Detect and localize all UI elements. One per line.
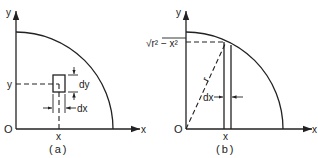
point-y-label-a: y (7, 79, 12, 90)
dx-label-b: dx (203, 92, 214, 103)
panel-b: dx r √r² − x² y x O x (b) (146, 7, 317, 155)
quarter-arc-b (186, 32, 283, 129)
dx-label-a: dx (77, 103, 88, 114)
point-x-label-a: x (56, 131, 61, 142)
origin-label-b: O (174, 123, 183, 135)
caption-a: (a) (49, 143, 68, 155)
quarter-circle-diagram: dy dx y x O x y (a) dx r √r² − x² y x O (0, 0, 318, 158)
point-x-label-b: x (223, 131, 228, 142)
x-axis-label-b: x (312, 124, 317, 135)
radius-label: r (200, 74, 212, 83)
y-axis-label-b: y (176, 7, 181, 18)
panel-a: dy dx y x O x y (a) (4, 7, 146, 155)
height-label: √r² − x² (146, 38, 179, 49)
radius-dashed (186, 42, 226, 129)
x-axis-label-a: x (141, 124, 146, 135)
y-axis-label-a: y (6, 7, 11, 18)
dy-label: dy (79, 79, 90, 90)
caption-b: (b) (216, 143, 235, 155)
origin-label-a: O (4, 123, 13, 135)
